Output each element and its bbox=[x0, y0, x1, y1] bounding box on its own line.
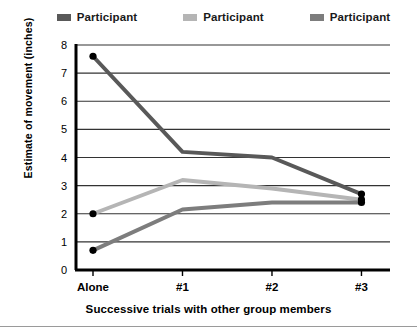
data-series-lines bbox=[93, 56, 361, 250]
data-point-marker bbox=[358, 199, 365, 206]
chart-figure: Participant Participant Participant Esti… bbox=[0, 0, 417, 334]
data-point-marker bbox=[89, 247, 96, 254]
x-tick-label: #1 bbox=[176, 281, 189, 293]
series-line-1 bbox=[93, 180, 361, 214]
x-axis-title: Successive trials with other group membe… bbox=[0, 303, 417, 315]
x-tick-labels: Alone#1#2#3 bbox=[77, 281, 368, 293]
y-tick-label: 7 bbox=[61, 67, 67, 79]
x-tick-label: Alone bbox=[77, 281, 109, 293]
gridlines bbox=[76, 45, 390, 242]
y-tick-label: 2 bbox=[61, 208, 67, 220]
x-tick-label: #2 bbox=[266, 281, 279, 293]
chart-svg: 012345678 Alone#1#2#3 bbox=[0, 0, 417, 334]
series-line-0 bbox=[93, 56, 361, 194]
series-line-2 bbox=[93, 203, 361, 251]
y-tick-label: 5 bbox=[61, 123, 67, 135]
y-tick-label: 4 bbox=[61, 152, 67, 164]
y-tick-labels: 012345678 bbox=[61, 39, 67, 276]
y-tick-label: 8 bbox=[61, 39, 67, 51]
y-tick-label: 0 bbox=[61, 264, 67, 276]
y-tick-label: 1 bbox=[61, 236, 67, 248]
x-tick-label: #3 bbox=[355, 281, 368, 293]
data-point-marker bbox=[89, 210, 96, 217]
y-tick-label: 3 bbox=[61, 180, 67, 192]
footer-divider bbox=[0, 326, 417, 327]
y-tick-label: 6 bbox=[61, 95, 67, 107]
data-point-marker bbox=[89, 53, 96, 60]
plot-area: 012345678 Alone#1#2#3 bbox=[0, 0, 417, 334]
